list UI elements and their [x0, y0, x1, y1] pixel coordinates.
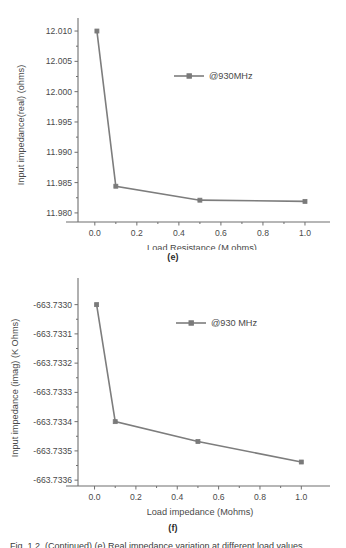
legend-marker-swatch: [187, 74, 191, 78]
data-point-marker: [113, 420, 117, 424]
y-tick-label: 12.005: [46, 56, 73, 66]
legend-label-930mhz: @930 MHz: [211, 318, 257, 328]
x-tick-label: 0.4: [173, 228, 185, 238]
x-tick-label: 0.8: [257, 228, 269, 238]
figure-panel-e: 11.98011.98511.99011.99512.00012.00512.0…: [0, 0, 346, 270]
data-point-marker: [299, 460, 303, 464]
y-tick-label: 12.000: [46, 87, 73, 97]
x-tick-label: 0.0: [89, 492, 101, 502]
x-tick-label: 0.6: [215, 228, 227, 238]
legend-label-930mhz: @930MHz: [209, 71, 253, 81]
y-tick-label: -663.7335: [33, 446, 72, 456]
panel-label-e: (e): [0, 252, 346, 262]
y-tick-label: -663.7333: [33, 387, 72, 397]
x-tick-label: 0.2: [130, 492, 142, 502]
y-axis-title: Input impedance(real) (ohms): [16, 65, 26, 186]
y-tick-label: -663.7332: [33, 358, 72, 368]
data-point-marker: [198, 198, 202, 202]
panel-label-f: (f): [0, 523, 346, 533]
x-axis-title: Load Resistance (M ohms): [147, 243, 257, 250]
chart-f-container: -663.7336-663.7335-663.7334-663.7333-663…: [0, 268, 346, 523]
legend-marker-swatch: [189, 321, 193, 325]
y-tick-label: -663.7336: [33, 475, 72, 485]
x-axis-title: Load impedance (Mohms): [147, 507, 254, 517]
y-tick-label: 11.990: [46, 147, 72, 157]
y-tick-label: -663.7331: [33, 329, 72, 339]
x-tick-label: 1.0: [295, 492, 307, 502]
data-point-marker: [114, 184, 118, 188]
y-axis-title: Input impedance (imag) (K Ohms): [10, 319, 20, 457]
figure-caption-text: Fig. 1.2. (Continued) (e) Real impedance…: [10, 541, 340, 548]
x-tick-label: 1.0: [299, 228, 311, 238]
series-line-930mhz: [97, 31, 305, 201]
y-tick-label: 11.985: [46, 178, 72, 188]
line-chart-imag-impedance: -663.7336-663.7335-663.7334-663.7333-663…: [0, 268, 346, 523]
line-chart-real-impedance: 11.98011.98511.99011.99512.00012.00512.0…: [0, 0, 346, 250]
x-tick-label: 0.6: [213, 492, 225, 502]
y-tick-label: 11.980: [46, 208, 72, 218]
y-tick-label: -663.7334: [33, 417, 72, 427]
data-point-marker: [196, 440, 200, 444]
series-line-930mhz: [97, 305, 302, 462]
y-tick-label: 12.010: [46, 26, 73, 36]
data-point-marker: [303, 199, 307, 203]
x-tick-label: 0.2: [131, 228, 143, 238]
figure-panel-f: -663.7336-663.7335-663.7334-663.7333-663…: [0, 268, 346, 548]
x-tick-label: 0.8: [254, 492, 266, 502]
chart-e-container: 11.98011.98511.99011.99512.00012.00512.0…: [0, 0, 346, 250]
y-tick-label: 11.995: [46, 117, 72, 127]
x-tick-label: 0.0: [89, 228, 101, 238]
y-tick-label: -663.7330: [33, 300, 72, 310]
x-tick-label: 0.4: [171, 492, 183, 502]
data-point-marker: [95, 303, 99, 307]
data-point-marker: [95, 29, 99, 33]
